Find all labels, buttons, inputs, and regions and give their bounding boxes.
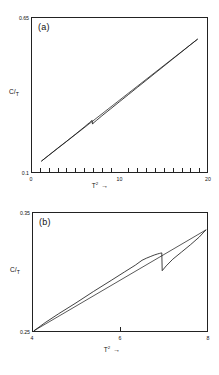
panel-a: (a) 0.65 0.1 0 10 20 C/T T2→ bbox=[0, 0, 219, 190]
baseline-fit-b bbox=[34, 230, 206, 331]
plot-svg-a bbox=[0, 0, 219, 190]
plot-svg-b bbox=[0, 190, 219, 375]
panel-b: (b) 0.35 0.25 4 6 8 C/T T2→ bbox=[0, 190, 219, 375]
figure-container: (a) 0.65 0.1 0 10 20 C/T T2→ bbox=[0, 0, 219, 375]
